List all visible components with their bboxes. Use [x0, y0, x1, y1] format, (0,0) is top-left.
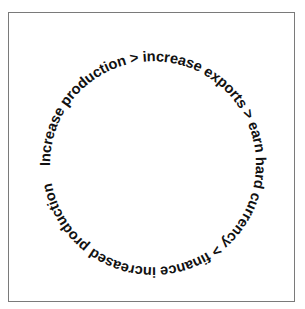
cycle-diagram: Increase production > increase exports >… [0, 0, 305, 309]
cycle-text-path: Increase production > increase exports >… [37, 48, 269, 280]
cycle-text: Increase production > increase exports >… [37, 48, 269, 280]
